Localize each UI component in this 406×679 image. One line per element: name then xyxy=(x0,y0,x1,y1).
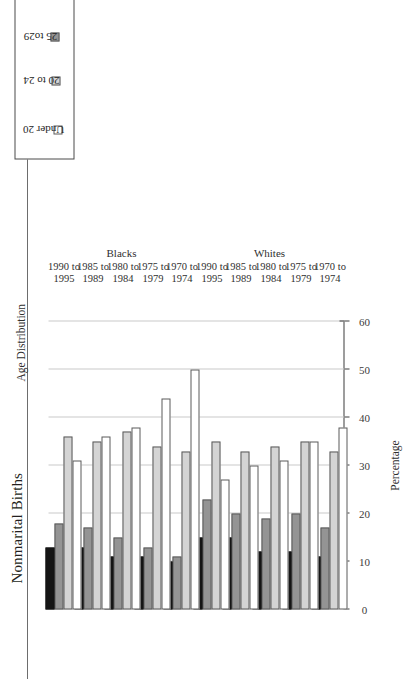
bar-whites-1985-to-s0 xyxy=(249,465,258,609)
bar-whites-1980-to-s2 xyxy=(261,518,270,609)
bar-whites-1970-to-s0 xyxy=(338,427,347,609)
gridline-60 xyxy=(48,320,344,321)
bar-blacks-1985-to-s1 xyxy=(92,441,101,609)
group-label-whites: Whites xyxy=(234,246,304,258)
bar-whites-1975-to-s2 xyxy=(291,513,300,609)
figure-title: Nonmarital Births xyxy=(8,473,25,583)
axis-tick-label-50: 50 xyxy=(344,363,384,375)
bar-whites-1970-to-s1 xyxy=(329,451,338,609)
axis-tick-label-0: 0 xyxy=(344,603,384,615)
bar-whites-1990-to-s0 xyxy=(220,479,229,609)
axis-end-cap xyxy=(339,320,344,321)
bar-blacks-1975-to-s1 xyxy=(152,446,161,609)
axis-tick-label-30: 30 xyxy=(344,459,384,471)
bar-blacks-1970-to-s1 xyxy=(181,451,190,609)
cat-label-line2: 1995 xyxy=(24,272,102,284)
chart-stage: Nonmarital Births Age Distribution 30 or… xyxy=(0,0,406,679)
bar-blacks-1985-to-s2 xyxy=(83,527,92,609)
legend-item-under-20[interactable]: Under 20 xyxy=(21,109,62,150)
bar-whites-1980-to-s1 xyxy=(270,446,279,609)
axis-tick-label-10: 10 xyxy=(344,555,384,567)
bar-whites-1980-to-s0 xyxy=(279,460,288,609)
bar-blacks-1990-to-s0 xyxy=(72,460,81,609)
legend-item-20-to-24[interactable]: 20 to 24 xyxy=(21,63,60,99)
bar-blacks-1985-to-s0 xyxy=(101,436,110,609)
figure-page: Nonmarital Births Age Distribution 30 or… xyxy=(0,0,406,679)
bar-blacks-1980-to-s0 xyxy=(131,427,140,609)
legend-item-30-or-older[interactable]: 30 or older xyxy=(21,0,66,9)
bar-whites-1990-to-s2 xyxy=(202,499,211,609)
bar-blacks-1975-to-s2 xyxy=(143,547,152,609)
group-label-blacks: Blacks xyxy=(86,246,156,258)
bar-whites-1985-to-s1 xyxy=(240,451,249,609)
legend-label-20-to-24: 20 to 24 xyxy=(23,75,59,87)
cat-label-line1: 1990 to xyxy=(24,261,102,273)
plot-area: 0102030405060 xyxy=(48,321,344,609)
legend-label-under-20: Under 20 xyxy=(22,123,63,135)
bar-blacks-1990-to-s1 xyxy=(63,436,72,609)
age-distribution-caption: Age Distribution xyxy=(14,303,26,381)
bar-whites-1985-to-s2 xyxy=(231,513,240,609)
bar-blacks-1975-to-s0 xyxy=(161,398,170,609)
bar-whites-1975-to-s0 xyxy=(309,441,318,609)
bar-blacks-1980-to-s1 xyxy=(122,431,131,609)
legend-label-25-to-29: 25 to29 xyxy=(23,30,56,42)
bar-blacks-1980-to-s2 xyxy=(113,537,122,609)
bar-whites-1975-to-s1 xyxy=(300,441,309,609)
bar-whites-1970-to-s2 xyxy=(320,527,329,609)
bar-blacks-1970-to-s2 xyxy=(172,556,181,609)
value-axis-title: Percentage xyxy=(388,321,400,609)
axis-tick-label-40: 40 xyxy=(344,411,384,423)
legend-item-25-to-29[interactable]: 25 to29 xyxy=(21,19,59,52)
axis-tick-label-20: 20 xyxy=(344,507,384,519)
bar-blacks-1990-to-s2 xyxy=(54,523,63,609)
bar-blacks-1970-to-s0 xyxy=(190,369,199,609)
axis-tick-label-60: 60 xyxy=(344,315,384,327)
category-label-blacks-4: 1990 to1995 xyxy=(24,261,102,284)
chart-legend: 30 or older 25 to29 20 to 24 Under 20 xyxy=(14,0,74,159)
bar-whites-1990-to-s1 xyxy=(211,441,220,609)
bar-blacks-1990-to-s3 xyxy=(45,547,54,609)
